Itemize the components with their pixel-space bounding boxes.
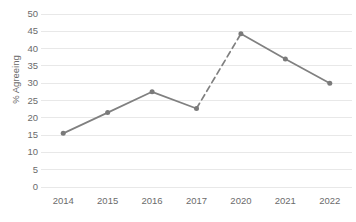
x-axis-tick-label: 2014 [43, 196, 83, 206]
data-point-marker [150, 89, 155, 94]
chart-canvas [0, 0, 356, 222]
x-axis-tick-label: 2021 [265, 196, 305, 206]
x-axis-tick-label: 2015 [88, 196, 128, 206]
x-axis-tick-label: 2020 [221, 196, 261, 206]
line-segment-dashed [197, 34, 241, 109]
x-axis-tick-label: 2016 [132, 196, 172, 206]
data-point-marker [283, 56, 288, 61]
line-chart: % Agreeing 05101520253035404550 20142015… [0, 0, 356, 222]
x-axis-tick-label: 2017 [177, 196, 217, 206]
data-point-marker [194, 106, 199, 111]
line-segment [108, 92, 152, 113]
data-point-marker [238, 31, 243, 36]
data-point-marker [327, 81, 332, 86]
line-segment [285, 59, 329, 83]
data-point-marker [105, 110, 110, 115]
gridlines [41, 14, 352, 187]
x-axis-tick-labels: 2014201520162017202020212022 [0, 196, 356, 210]
data-point-marker [61, 131, 66, 136]
x-axis-tick-label: 2022 [310, 196, 350, 206]
line-segment [241, 34, 285, 59]
line-segment [63, 113, 107, 134]
plot-area: % Agreeing 05101520253035404550 20142015… [0, 0, 356, 222]
